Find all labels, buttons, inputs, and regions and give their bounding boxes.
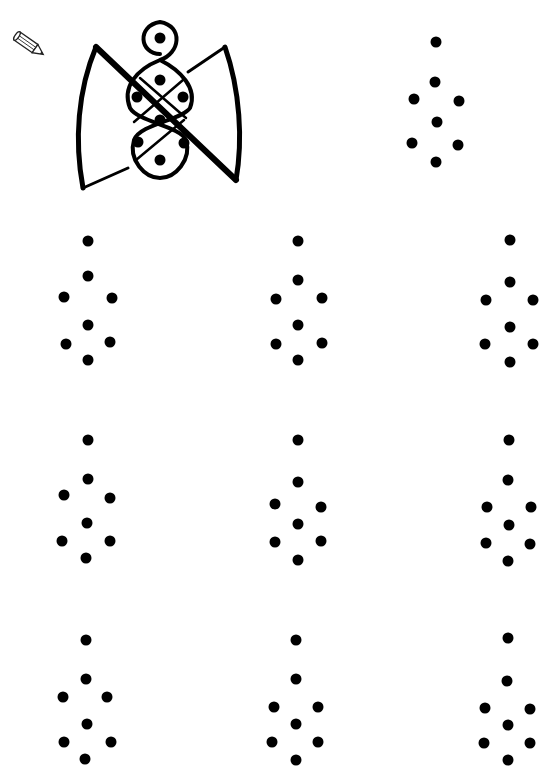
pattern-dot <box>526 502 537 513</box>
pattern-dot <box>504 520 515 531</box>
pattern-dot <box>505 357 516 368</box>
pattern-dot <box>83 271 94 282</box>
pattern-dot <box>503 556 514 567</box>
pattern-dot <box>502 676 513 687</box>
pattern-dot <box>453 140 464 151</box>
pattern-dot <box>525 704 536 715</box>
worksheet-canvas <box>0 0 548 777</box>
pattern-dot <box>528 295 539 306</box>
pattern-dot <box>503 633 514 644</box>
practice-pattern-r2-c1 <box>57 435 116 564</box>
pattern-dot <box>270 537 281 548</box>
practice-pattern-r2-c3 <box>481 435 537 567</box>
kolam-dot <box>155 155 166 166</box>
pattern-dot <box>58 692 69 703</box>
pattern-dot <box>504 435 515 446</box>
pattern-dot <box>481 295 492 306</box>
pattern-dot <box>291 674 302 685</box>
pattern-dot <box>270 499 281 510</box>
practice-pattern-r3-c3 <box>479 633 536 766</box>
kolam-dot <box>155 115 166 126</box>
pattern-dot <box>316 502 327 513</box>
pattern-dot <box>61 339 72 350</box>
pattern-dot <box>291 719 302 730</box>
kolam-dot <box>179 138 190 149</box>
pattern-dot <box>431 37 442 48</box>
pattern-dot <box>293 519 304 530</box>
pattern-dot <box>482 502 493 513</box>
practice-pattern-r1-c3 <box>480 235 539 368</box>
pattern-dot <box>503 475 514 486</box>
practice-dot-grid <box>57 235 539 766</box>
pattern-dot <box>82 518 93 529</box>
pattern-dot <box>528 339 539 350</box>
pattern-dot <box>505 235 516 246</box>
pattern-dot <box>503 720 514 731</box>
pattern-dot <box>105 493 116 504</box>
pattern-dot <box>293 435 304 446</box>
pattern-dot <box>293 236 304 247</box>
pattern-dot <box>479 738 490 749</box>
pattern-dot <box>102 692 113 703</box>
practice-pattern-r3-c1 <box>58 635 117 765</box>
practice-pattern-r3-c2 <box>267 635 324 766</box>
pattern-dot <box>293 477 304 488</box>
pattern-dot <box>481 538 492 549</box>
kolam-dot <box>133 137 144 148</box>
pattern-dot <box>271 339 282 350</box>
pattern-dot <box>83 320 94 331</box>
pattern-dot <box>317 338 328 349</box>
pattern-dot <box>267 737 278 748</box>
pattern-dot <box>83 474 94 485</box>
kolam-dot <box>155 75 166 86</box>
pattern-dot <box>432 117 443 128</box>
practice-pattern-r1-c2 <box>271 236 328 366</box>
kolam-dot <box>132 92 143 103</box>
pattern-dot <box>503 755 514 766</box>
pattern-dot <box>59 490 70 501</box>
pattern-dot <box>480 339 491 350</box>
pattern-dot <box>293 555 304 566</box>
pattern-dot <box>271 294 282 305</box>
pattern-dot <box>409 94 420 105</box>
practice-pattern-r2-c2 <box>270 435 327 566</box>
pattern-dot <box>313 737 324 748</box>
pattern-dot <box>83 435 94 446</box>
pattern-dot <box>431 157 442 168</box>
pattern-dot <box>407 138 418 149</box>
pattern-dot <box>107 293 118 304</box>
pattern-dot <box>106 737 117 748</box>
pattern-dot <box>105 337 116 348</box>
pattern-dot <box>525 539 536 550</box>
pattern-dot <box>82 719 93 730</box>
pattern-dot <box>81 635 92 646</box>
pattern-dot <box>80 754 91 765</box>
pattern-dot <box>316 536 327 547</box>
pattern-dot <box>83 236 94 247</box>
pattern-dot <box>430 77 441 88</box>
kolam-dot <box>155 33 166 44</box>
practice-pattern-r1-c1 <box>59 236 118 366</box>
pattern-dot <box>505 322 516 333</box>
template-dot-pattern <box>407 37 465 168</box>
pencil-icon <box>12 31 46 59</box>
pattern-dot <box>81 553 92 564</box>
pattern-dot <box>505 277 516 288</box>
pattern-dot <box>59 737 70 748</box>
pattern-dot <box>525 738 536 749</box>
pattern-dot <box>59 292 70 303</box>
pattern-dot <box>83 355 94 366</box>
pattern-dot <box>313 702 324 713</box>
pattern-dot <box>57 536 68 547</box>
pattern-dot <box>269 702 280 713</box>
pattern-dot <box>105 536 116 547</box>
pattern-dot <box>317 293 328 304</box>
pattern-dot <box>291 635 302 646</box>
pattern-dot <box>293 275 304 286</box>
pattern-dot <box>293 320 304 331</box>
pattern-dot <box>291 755 302 766</box>
pattern-dot <box>81 674 92 685</box>
kolam-dot <box>178 92 189 103</box>
pattern-dot <box>454 96 465 107</box>
pattern-dot <box>293 355 304 366</box>
